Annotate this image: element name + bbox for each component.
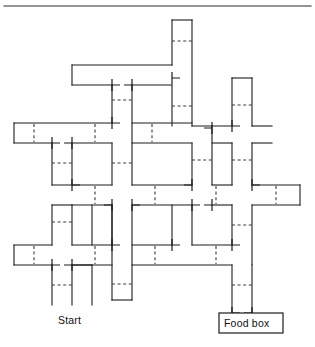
door-mark-12 xyxy=(132,199,140,211)
door-mark-19 xyxy=(52,259,60,271)
door-mark-18 xyxy=(232,239,240,251)
start-label: Start xyxy=(58,314,81,326)
door-mark-6 xyxy=(204,122,212,134)
maze-door-marks xyxy=(52,72,260,319)
door-mark-16 xyxy=(112,239,120,251)
maze-diagram: Start Food box xyxy=(0,0,315,347)
door-mark-2 xyxy=(124,79,132,91)
door-mark-4 xyxy=(112,117,120,129)
maze-walls xyxy=(14,20,300,313)
door-mark-3 xyxy=(172,72,180,84)
door-mark-7 xyxy=(52,137,60,149)
door-mark-15 xyxy=(204,199,212,211)
door-mark-1 xyxy=(112,79,120,91)
door-mark-11 xyxy=(252,179,260,191)
door-mark-13 xyxy=(104,199,112,211)
door-mark-17 xyxy=(172,239,180,251)
door-mark-10 xyxy=(184,179,192,191)
door-mark-20 xyxy=(64,259,72,271)
food-box-label: Food box xyxy=(224,317,270,329)
door-mark-14 xyxy=(192,199,200,211)
door-mark-8 xyxy=(64,137,72,149)
door-mark-9 xyxy=(72,179,80,191)
door-mark-5 xyxy=(232,120,240,132)
